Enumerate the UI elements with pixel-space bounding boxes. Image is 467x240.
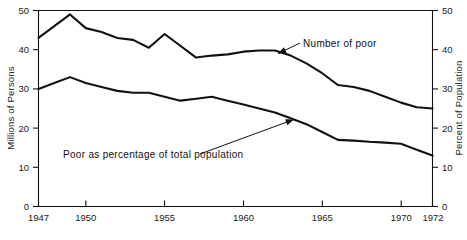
- chart-figure: 50 40 30 20 10 0 50 40 30 20 10 0: [0, 0, 467, 240]
- x-tick-label-1965: 1965: [312, 212, 333, 223]
- left-tick-label-20: 20: [18, 123, 29, 134]
- right-tick-label-40: 40: [442, 44, 453, 55]
- left-tick-label-50: 50: [18, 5, 29, 16]
- left-tick-label-0: 0: [24, 201, 29, 212]
- left-y-ticks: 50 40 30 20 10 0: [18, 5, 38, 212]
- x-tick-label-1972: 1972: [422, 212, 443, 223]
- right-tick-label-10: 10: [442, 162, 453, 173]
- right-tick-label-50: 50: [442, 5, 453, 16]
- annotation-number-of-poor: Number of poor: [278, 38, 377, 54]
- poverty-line-chart: 50 40 30 20 10 0 50 40 30 20 10 0: [0, 0, 467, 240]
- x-tick-label-1947: 1947: [28, 212, 49, 223]
- annotation-poor-percentage: Poor as percentage of total population: [63, 119, 294, 160]
- left-axis-title: Millions of Persons: [5, 66, 16, 150]
- x-tick-label-1950: 1950: [75, 212, 96, 223]
- arrow-head-number-of-poor: [278, 47, 287, 53]
- right-tick-label-20: 20: [442, 123, 453, 134]
- series-line-number-of-poor: [39, 14, 433, 108]
- left-tick-label-40: 40: [18, 44, 29, 55]
- right-axis-title: Percent of Population: [453, 60, 464, 155]
- x-tick-label-1955: 1955: [154, 212, 175, 223]
- x-tick-label-1960: 1960: [233, 212, 254, 223]
- annotation-label-poor-percentage: Poor as percentage of total population: [63, 149, 243, 160]
- left-tick-label-10: 10: [18, 162, 29, 173]
- right-tick-label-30: 30: [442, 83, 453, 94]
- x-ticks: 1947 1950 1955 1960 1965 1970 1972: [28, 201, 444, 224]
- arrow-head-poor-percentage: [285, 119, 294, 125]
- annotation-label-number-of-poor: Number of poor: [303, 38, 377, 49]
- series-line-poor-percentage: [39, 77, 433, 155]
- left-tick-label-30: 30: [18, 83, 29, 94]
- x-tick-label-1970: 1970: [391, 212, 412, 223]
- right-tick-label-0: 0: [442, 201, 447, 212]
- right-y-ticks: 50 40 30 20 10 0: [433, 5, 453, 212]
